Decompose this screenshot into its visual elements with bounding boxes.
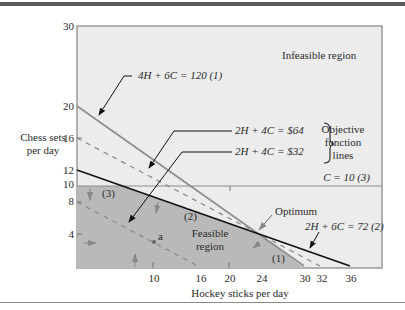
svg-text:36: 36: [346, 272, 358, 284]
svg-text:10: 10: [63, 178, 75, 190]
infeasible-region-label: Infeasible region: [282, 49, 357, 61]
point-a-marker: [152, 240, 156, 244]
constraint-2-tag: (2): [184, 210, 197, 223]
optimum-label: Optimum: [275, 205, 318, 217]
objective-64-label: 2H + 4C = $64: [235, 124, 304, 136]
svg-text:12: 12: [63, 164, 74, 176]
svg-text:20: 20: [63, 100, 75, 112]
svg-text:24: 24: [257, 272, 269, 284]
x-axis-label: Hockey sticks per day: [150, 287, 330, 299]
feasible-label-1: Feasible: [192, 227, 229, 239]
point-a-label: a: [158, 230, 163, 242]
svg-text:8: 8: [69, 195, 75, 207]
svg-text:10: 10: [149, 272, 161, 284]
svg-text:4: 4: [69, 228, 75, 240]
svg-text:20: 20: [225, 272, 237, 284]
x-tick-labels: 10 16 20 24 30 32 36: [149, 272, 358, 284]
y-tick-labels: 30 20 16 12 10 8 4: [63, 20, 75, 240]
y-axis-label: Chess sets per day: [20, 131, 66, 157]
constraint-1-label: 4H + 6C = 120 (1): [138, 69, 223, 82]
constraint-1-tag: (1): [272, 252, 285, 265]
constraint-3-label: C = 10 (3): [323, 171, 370, 184]
bottom-rule: [0, 302, 405, 303]
objective-32-label: 2H + 4C = $32: [235, 145, 304, 157]
svg-text:16: 16: [196, 272, 208, 284]
constraint-2-label: 2H + 6C = 72 (2): [305, 220, 384, 233]
constraint-3-tag: (3): [102, 187, 115, 200]
svg-text:30: 30: [63, 20, 75, 32]
svg-text:30: 30: [300, 272, 312, 284]
objective-title-3: lines: [333, 149, 354, 161]
svg-text:32: 32: [317, 272, 328, 284]
feasible-label-2: region: [196, 240, 225, 252]
